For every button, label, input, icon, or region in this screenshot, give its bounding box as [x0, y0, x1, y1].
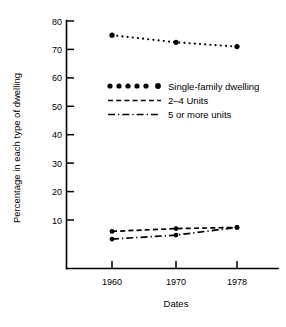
y-axis-tick-labels: 80 70 60 50 40 30 20 10	[52, 17, 62, 226]
series-2-4-units	[110, 225, 240, 234]
line-chart-svg: 80 70 60 50 40 30 20 10 1960 1970 1978 D…	[0, 0, 286, 327]
y-tick-label-60: 60	[52, 73, 62, 83]
legend-entry-single-family-dwelling: Single-family dwelling	[107, 81, 259, 92]
data-point-2-4-units-1960	[110, 229, 115, 234]
y-tick-label-50: 50	[52, 102, 62, 112]
series-single-family-dwelling	[109, 33, 239, 50]
legend-dot-2	[116, 83, 121, 88]
data-point-5-or-more-1970	[174, 233, 179, 238]
legend-entry-2-4-units: 2–4 Units	[108, 95, 208, 106]
y-tick-label-70: 70	[52, 45, 62, 55]
chart-figure: 80 70 60 50 40 30 20 10 1960 1970 1978 D…	[0, 0, 286, 327]
x-axis-ticks	[112, 261, 237, 269]
data-point-single-family-1970	[173, 40, 178, 45]
y-tick-label-10: 10	[52, 216, 62, 226]
legend-dot-6	[155, 83, 161, 89]
x-axis-title: Dates	[164, 298, 189, 309]
data-point-5-or-more-1960	[110, 237, 115, 242]
legend-entry-5-or-more-units: 5 or more units	[108, 109, 232, 120]
legend-label-single-family-dwelling: Single-family dwelling	[168, 81, 259, 92]
legend-dot-1	[107, 83, 112, 88]
data-point-single-family-1960	[109, 33, 114, 38]
data-point-5-or-more-1978	[235, 225, 240, 230]
x-tick-label-1960: 1960	[102, 277, 122, 287]
y-axis-ticks	[67, 21, 75, 220]
y-axis-title: Percentage in each type of dwelling	[11, 73, 22, 223]
y-tick-label-80: 80	[52, 17, 62, 27]
data-point-2-4-units-1970	[174, 226, 179, 231]
x-axis-tick-labels: 1960 1970 1978	[102, 277, 247, 287]
x-tick-label-1978: 1978	[227, 277, 247, 287]
legend-dot-5	[143, 83, 148, 88]
y-tick-label-20: 20	[52, 187, 62, 197]
chart-legend: Single-family dwelling 2–4 Units 5 or mo…	[107, 81, 259, 121]
legend-label-5-or-more-units: 5 or more units	[168, 109, 232, 120]
y-tick-label-30: 30	[52, 159, 62, 169]
data-point-single-family-1978	[234, 44, 239, 49]
legend-dot-4	[134, 83, 139, 88]
x-tick-label-1970: 1970	[166, 277, 186, 287]
y-tick-label-40: 40	[52, 130, 62, 140]
legend-label-2-4-units: 2–4 Units	[168, 95, 208, 106]
legend-dot-3	[125, 83, 130, 88]
